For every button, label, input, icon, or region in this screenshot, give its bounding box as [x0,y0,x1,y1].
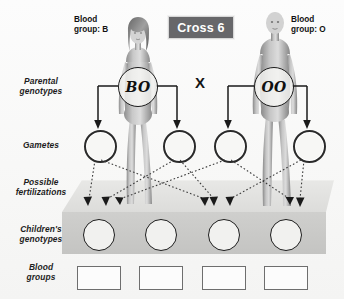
blood-group-box-4[interactable] [264,266,308,290]
diagram-canvas: Cross 6 Blood group: B Blood group: O Pa… [0,0,344,299]
child-genotype-circle-3[interactable] [208,219,240,251]
child-genotype-circle-2[interactable] [145,219,177,251]
child-genotype-circle-1[interactable] [83,219,115,251]
possible-fertilization-arrows [0,0,344,299]
blood-group-box-3[interactable] [202,266,246,290]
child-genotype-circle-4[interactable] [270,219,302,251]
blood-group-box-2[interactable] [139,266,183,290]
blood-group-box-1[interactable] [77,266,121,290]
